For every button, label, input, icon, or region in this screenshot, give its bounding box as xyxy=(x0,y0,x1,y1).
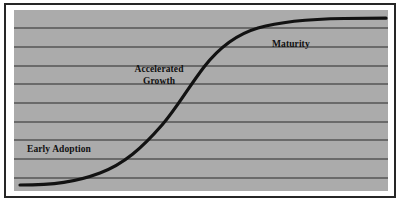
label-early-adoption: Early Adoption xyxy=(27,143,91,155)
plot-area: Early Adoption Accelerated Growth Maturi… xyxy=(14,10,388,191)
label-early-adoption-text: Early Adoption xyxy=(27,144,91,154)
adoption-curve-path xyxy=(20,18,386,185)
label-maturity-text: Maturity xyxy=(272,39,310,49)
label-accelerated-growth-line-2: Growth xyxy=(122,75,196,87)
label-accelerated-growth-line-1: Accelerated xyxy=(122,63,196,75)
technology-adoption-s-curve-figure: Early Adoption Accelerated Growth Maturi… xyxy=(0,0,402,207)
label-accelerated-growth: Accelerated Growth xyxy=(122,63,196,87)
label-maturity: Maturity xyxy=(272,38,310,50)
adoption-curve xyxy=(14,10,388,191)
